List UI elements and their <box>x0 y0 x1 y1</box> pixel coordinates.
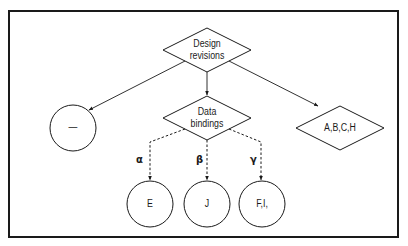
left-node-label: — <box>60 121 86 133</box>
edge-root-left <box>89 61 185 110</box>
data-label-line2: bindings <box>176 118 238 130</box>
data-label-line1: Data <box>176 106 238 118</box>
alpha-label: α <box>136 154 143 165</box>
leaf-label-j: J <box>194 198 220 210</box>
design-label-line2: revisions <box>176 50 238 62</box>
abch-label: A,B,C,H <box>309 122 371 134</box>
beta-label: β <box>196 154 203 165</box>
leaf-label-fi: F,I, <box>249 198 275 210</box>
leaf-label-e: E <box>137 198 163 210</box>
gamma-label: γ <box>250 154 257 165</box>
edge-root-right <box>229 61 318 106</box>
design-revisions-label: Design revisions <box>176 38 238 62</box>
design-label-line1: Design <box>176 38 238 50</box>
edge-alpha <box>150 129 185 180</box>
data-bindings-label: Data bindings <box>176 106 238 130</box>
